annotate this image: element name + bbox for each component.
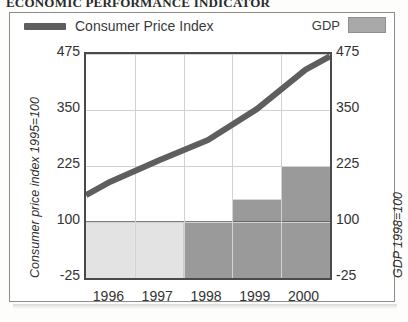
x-axis-tick-label: 1996 bbox=[93, 288, 124, 304]
x-axis-tick-label: 2000 bbox=[288, 288, 319, 304]
x-axis-tick-label: 1997 bbox=[142, 288, 173, 304]
y-axis-right-tick-label: 475 bbox=[336, 43, 359, 59]
y-axis-left-tick-label: 475 bbox=[57, 43, 80, 59]
gridline-horizontal bbox=[86, 278, 330, 279]
cpi-line bbox=[86, 56, 330, 195]
legend-label-cpi: Consumer Price Index bbox=[75, 18, 214, 34]
y-axis-left-tick-label: 225 bbox=[57, 155, 80, 171]
plot-area bbox=[84, 52, 332, 280]
y-axis-right-tick-label: 350 bbox=[336, 99, 359, 115]
y-axis-right-ticks: 475350225100-25 bbox=[336, 0, 380, 322]
y-axis-right-title: GDP 1998=100 bbox=[391, 192, 405, 278]
cpi-line-layer bbox=[86, 54, 330, 278]
y-axis-left-tick-label: 350 bbox=[57, 99, 80, 115]
cpi-line-svg bbox=[86, 54, 330, 278]
y-axis-left-tick-label: -25 bbox=[60, 267, 80, 283]
y-axis-left-tick-label: 100 bbox=[57, 211, 80, 227]
x-axis-tick-label: 1998 bbox=[190, 288, 221, 304]
y-axis-right-tick-label: 100 bbox=[336, 211, 359, 227]
x-axis-tick-label: 1999 bbox=[239, 288, 270, 304]
y-axis-right-tick-label: 225 bbox=[336, 155, 359, 171]
y-axis-left-title: Consumer price index 1995=100 bbox=[28, 97, 42, 278]
chart-page: ECONOMIC PERFORMANCE INDICATOR Consumer … bbox=[0, 0, 408, 322]
y-axis-left-ticks: 475350225100-25 bbox=[38, 0, 80, 322]
y-axis-right-tick-label: -25 bbox=[336, 267, 356, 283]
